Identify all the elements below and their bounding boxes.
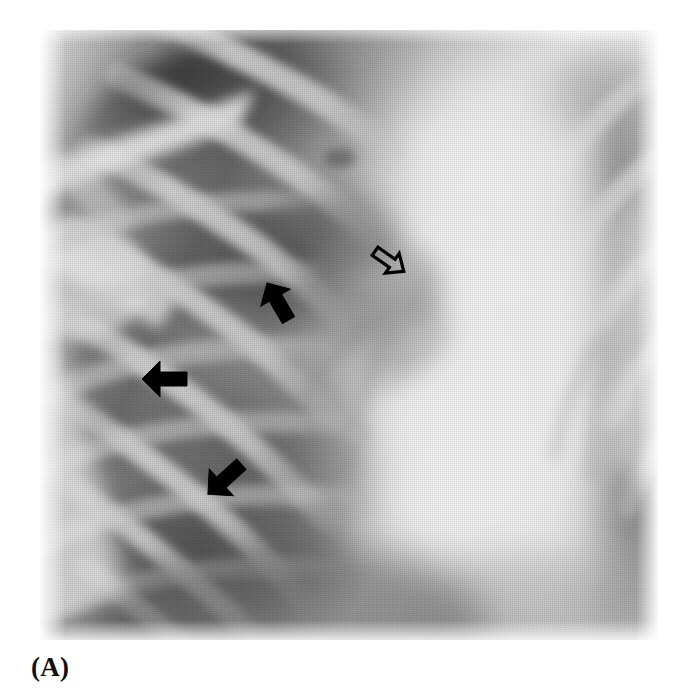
figure-root: (A) (0, 0, 691, 698)
annotation-open-arrow-hilar[interactable] (366, 238, 412, 284)
radiograph-canvas (40, 30, 658, 640)
solid-arrow-icon (138, 352, 192, 406)
radiograph-image (40, 30, 658, 640)
annotation-solid-arrow-lower[interactable] (198, 452, 252, 506)
solid-arrow-icon (252, 276, 304, 328)
annotation-solid-arrow-middle[interactable] (138, 352, 192, 406)
solid-arrow-icon (198, 452, 252, 506)
annotation-solid-arrow-upper[interactable] (252, 276, 304, 328)
radiograph-content (40, 30, 658, 640)
figure-caption-label: (A) (31, 651, 69, 683)
open-arrow-icon (366, 238, 412, 284)
